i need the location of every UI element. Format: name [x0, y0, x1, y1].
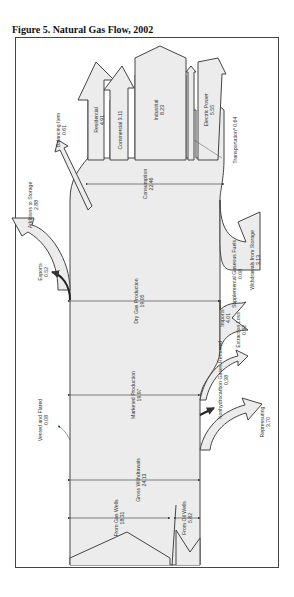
gas-flow-diagram: Residential4.91 Commercial 3.11 Industri…	[0, 0, 294, 597]
exports-label: Exports0.52	[37, 263, 49, 281]
repressuring-label: Repressuring3.70	[259, 406, 271, 437]
commercial-label: Commercial 3.11	[117, 110, 123, 149]
vented-flared-label: Vented and Flared0.08	[37, 399, 49, 442]
extraction-loss-label: Extraction Loss0.92	[235, 312, 247, 348]
transportation-arrow	[186, 66, 196, 160]
repressuring-arrow	[200, 398, 262, 450]
transportation-label: Transportationa 0.64	[232, 117, 238, 164]
vented-flared-arrow	[58, 426, 70, 440]
nonhydrocarbon-label: Nonhydrocarbon Gases Removed0.38	[217, 341, 229, 420]
industrial-arrow	[135, 46, 186, 160]
nonhydrocarbon-arrow	[200, 408, 214, 415]
